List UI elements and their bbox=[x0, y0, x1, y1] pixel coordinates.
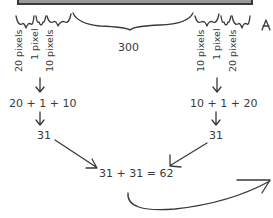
left-border-label: 1 pixel bbox=[30, 28, 40, 60]
content-width-label: 300 bbox=[118, 42, 139, 53]
right-margin-brace bbox=[232, 16, 250, 28]
arrow-right-2 bbox=[212, 112, 220, 125]
left-sum: 20 + 1 + 10 bbox=[9, 98, 76, 109]
right-padding-brace bbox=[195, 14, 219, 26]
left-border-brace bbox=[36, 16, 46, 25]
arrow-left-to-sum bbox=[55, 140, 97, 168]
arrow-left-2 bbox=[36, 112, 44, 125]
left-margin-label: 20 pixels bbox=[14, 29, 24, 72]
arrow-right-1 bbox=[213, 78, 221, 92]
right-margin-label: 20 pixels bbox=[228, 29, 238, 72]
left-total: 31 bbox=[37, 130, 51, 141]
left-padding-label: 10 pixels bbox=[45, 29, 55, 72]
cut-off-glyph bbox=[262, 20, 270, 30]
right-total: 31 bbox=[209, 130, 223, 141]
right-padding-label: 10 pixels bbox=[196, 29, 206, 72]
element-box bbox=[18, 0, 252, 4]
arrow-continue bbox=[128, 180, 270, 210]
content-brace bbox=[73, 13, 193, 30]
left-padding-brace bbox=[47, 14, 71, 26]
left-margin-brace bbox=[16, 16, 34, 28]
right-border-label: 1 pixel bbox=[212, 28, 222, 60]
arrow-left-1 bbox=[36, 78, 44, 92]
final-equation: 31 + 31 = 62 bbox=[99, 168, 173, 179]
right-sum: 10 + 1 + 20 bbox=[190, 98, 257, 109]
right-border-brace bbox=[221, 16, 231, 25]
box-model-diagram: 20 pixels 1 pixel 10 pixels 300 10 pixel… bbox=[0, 0, 273, 218]
arrow-right-to-sum bbox=[170, 143, 207, 167]
